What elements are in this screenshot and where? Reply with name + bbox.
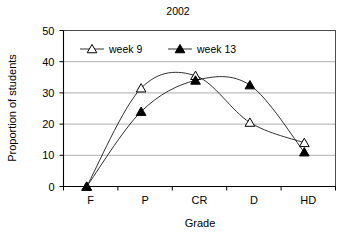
y-axis-tick-label: 50 <box>42 25 54 37</box>
data-point-marker <box>299 148 309 156</box>
y-axis-tick-labels: 01020304050 <box>42 25 54 193</box>
x-axis-category-label: HD <box>300 194 316 206</box>
gridlines <box>64 62 336 156</box>
chart-container: 2002 Proportion of students Grade 010203… <box>0 0 356 235</box>
series-line <box>87 72 305 186</box>
y-axis-tick-label: 0 <box>48 181 54 193</box>
chart-title: 2002 <box>166 5 190 17</box>
y-axis-tick-label: 30 <box>42 87 54 99</box>
chart-legend: week 9week 13 <box>80 43 236 55</box>
x-axis-title: Grade <box>185 217 216 229</box>
series-layer <box>82 71 309 190</box>
data-point-marker <box>299 138 309 146</box>
y-axis-tick-marks <box>60 31 64 187</box>
x-axis-tick-marks <box>64 187 336 191</box>
legend-label: week 13 <box>196 43 236 55</box>
x-axis-category-labels: FPCRDHD <box>87 194 316 206</box>
y-axis-tick-label: 40 <box>42 56 54 68</box>
x-axis-category-label: F <box>87 194 94 206</box>
data-point-marker <box>245 118 255 126</box>
y-axis-tick-label: 20 <box>42 118 54 130</box>
x-axis-category-label: P <box>141 194 148 206</box>
y-axis-tick-label: 10 <box>42 149 54 161</box>
data-point-marker <box>245 81 255 89</box>
x-axis-category-label: CR <box>192 194 208 206</box>
series-week-9 <box>82 71 309 190</box>
line-chart: 2002 Proportion of students Grade 010203… <box>0 0 356 235</box>
legend-label: week 9 <box>108 43 142 55</box>
y-axis-title: Proportion of students <box>6 54 18 162</box>
x-axis-category-label: D <box>250 194 258 206</box>
